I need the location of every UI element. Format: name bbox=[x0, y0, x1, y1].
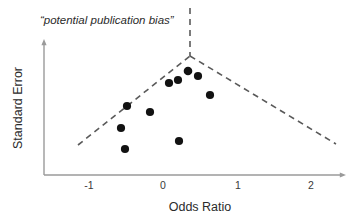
data-point bbox=[117, 124, 125, 132]
data-point bbox=[174, 76, 182, 84]
data-point bbox=[184, 67, 193, 76]
x-axis-arrowhead bbox=[340, 172, 346, 177]
data-point-group bbox=[117, 67, 214, 153]
x-tick-label-one: 1 bbox=[235, 179, 241, 191]
x-tick-label-minus-one: -1 bbox=[84, 179, 93, 191]
funnel-left-arm bbox=[78, 56, 190, 145]
x-tick-label-two: 2 bbox=[308, 179, 314, 191]
x-axis-title: Odds Ratio bbox=[169, 200, 232, 214]
funnel-plot-figure: -1 0 1 2 Odds Ratio Standard Error “pote… bbox=[0, 0, 359, 218]
x-tick-label-zero: 0 bbox=[160, 179, 166, 191]
data-point bbox=[121, 145, 129, 153]
data-point bbox=[165, 79, 173, 87]
data-point bbox=[123, 102, 131, 110]
y-axis-title: Standard Error bbox=[11, 67, 25, 149]
chart-canvas: -1 0 1 2 Odds Ratio Standard Error “pote… bbox=[0, 0, 359, 218]
publication-bias-annotation: “potential publication bias” bbox=[40, 14, 175, 26]
funnel-right-arm bbox=[190, 56, 336, 144]
y-axis-arrowhead bbox=[41, 39, 46, 45]
data-point bbox=[175, 137, 183, 145]
data-point bbox=[206, 91, 214, 99]
data-point bbox=[194, 72, 202, 80]
data-point bbox=[146, 108, 154, 116]
